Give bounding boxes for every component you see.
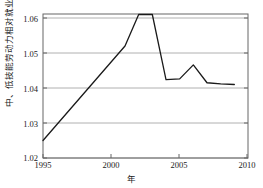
y-tick-label-3: 1.04 xyxy=(4,84,38,94)
chart-figure: 中、低技能劳动力相对就业 年 1.06 1.05 1.04 1.03 1.02 … xyxy=(0,0,263,188)
x-tick-label-1: 1995 xyxy=(23,160,63,170)
y-tick-label-2: 1.05 xyxy=(4,49,38,59)
data-series-line xyxy=(43,15,234,141)
y-tick-label-1: 1.06 xyxy=(4,14,38,24)
y-tick-label-4: 1.03 xyxy=(4,119,38,129)
x-tick-label-3: 2005 xyxy=(159,160,199,170)
x-tick-label-4: 2010 xyxy=(227,160,263,170)
x-axis-title: 年 xyxy=(0,172,263,184)
axis-frame xyxy=(43,14,248,158)
x-tick-label-2: 2000 xyxy=(91,160,131,170)
gridlines xyxy=(43,18,248,158)
